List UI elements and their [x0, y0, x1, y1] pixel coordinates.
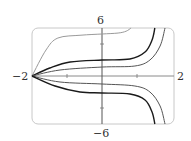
y-max-label: 6: [97, 15, 104, 26]
x-min-label: −2: [12, 71, 28, 82]
x-max-label: 2: [177, 71, 184, 82]
chart: [0, 0, 191, 141]
curve-2: [32, 28, 155, 76]
y-min-label: −6: [93, 128, 109, 139]
